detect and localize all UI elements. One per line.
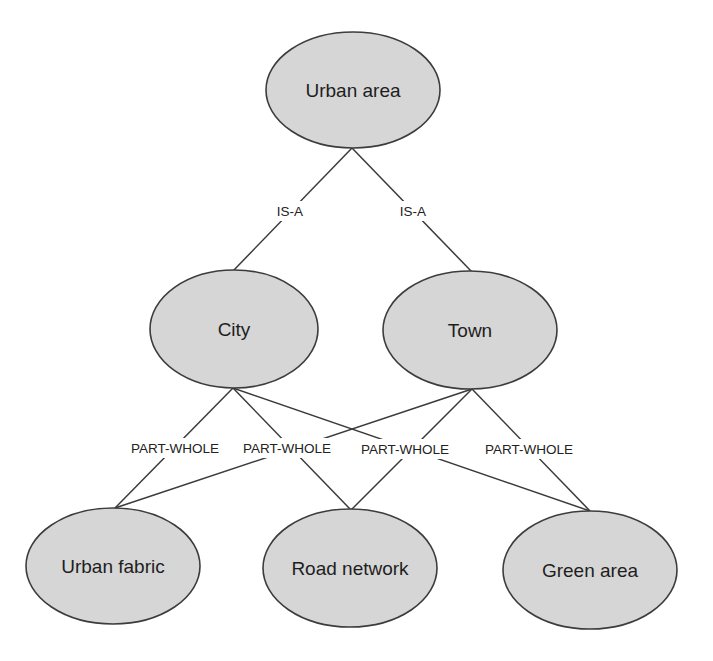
node-label: Road network: [291, 558, 409, 579]
node-label: Town: [448, 320, 492, 341]
is-a-relation-label: IS-A: [270, 201, 310, 221]
node-town: Town: [383, 271, 557, 389]
urban-concept-diagram: IS-AIS-APART-WHOLEPART-WHOLEPART-WHOLEPA…: [0, 0, 713, 661]
node-city: City: [150, 270, 318, 388]
node-road-network: Road network: [263, 509, 437, 627]
node-urban-area: Urban area: [266, 32, 440, 148]
node-label: City: [218, 319, 251, 340]
nodes-layer: Urban areaCityTownUrban fabricRoad netwo…: [26, 32, 677, 629]
edge-label-text: PART-WHOLE: [131, 441, 219, 456]
is-a-relation-label: IS-A: [393, 201, 433, 221]
node-green-area: Green area: [503, 511, 677, 629]
part-whole-relation-label: PART-WHOLE: [475, 439, 583, 459]
node-label: Green area: [542, 560, 639, 581]
part-whole-relation-label: PART-WHOLE: [233, 438, 341, 458]
edge-label-text: IS-A: [400, 204, 426, 219]
part-whole-relation-label: PART-WHOLE: [351, 439, 459, 459]
part-whole-relation-label: PART-WHOLE: [121, 438, 229, 458]
node-urban-fabric: Urban fabric: [26, 508, 200, 624]
edge-label-text: PART-WHOLE: [485, 442, 573, 457]
node-label: Urban fabric: [61, 556, 165, 577]
node-label: Urban area: [305, 80, 400, 101]
edge-label-text: PART-WHOLE: [361, 442, 449, 457]
edge-label-text: IS-A: [277, 204, 303, 219]
edge-label-text: PART-WHOLE: [243, 441, 331, 456]
